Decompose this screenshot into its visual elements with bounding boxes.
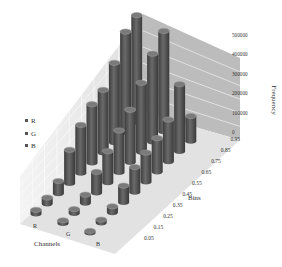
bin-tick: 0.65 xyxy=(202,169,212,175)
bin-tick: 0.05 xyxy=(144,235,154,241)
legend-item-b: B xyxy=(25,142,36,150)
legend-item-g: G xyxy=(25,130,36,138)
column-g-0.25 xyxy=(80,192,91,206)
column-b-0.45 xyxy=(129,164,140,194)
column-g-0.55 xyxy=(114,128,125,175)
bin-tick: 0.25 xyxy=(163,213,173,219)
column-g-0.85 xyxy=(147,51,158,144)
frequency-tick: 0 xyxy=(232,129,235,135)
column-b-0.35 xyxy=(118,183,129,205)
frequency-axis-label: Frequency xyxy=(270,85,278,115)
channel-tick-r: R xyxy=(33,223,37,229)
column-g-0.65 xyxy=(125,107,136,165)
legend-item-r: R xyxy=(25,117,36,125)
legend-label-g: G xyxy=(31,130,36,138)
column-r-0.35 xyxy=(64,147,75,186)
channel-tick-b: B xyxy=(96,241,100,247)
bin-tick: 0.55 xyxy=(192,180,202,186)
legend-swatch-b xyxy=(25,144,28,147)
column-g-0.45 xyxy=(102,149,113,186)
column-g-0.75 xyxy=(136,80,147,154)
column-r-0.05 xyxy=(31,207,42,216)
column-r-0.55 xyxy=(87,102,98,166)
bin-tick: 0.35 xyxy=(173,202,183,208)
column-r-0.25 xyxy=(53,178,64,196)
legend-label-b: B xyxy=(31,142,36,150)
column-b-0.85 xyxy=(174,82,185,154)
column-g-0.05 xyxy=(58,218,69,226)
column-r-0.15 xyxy=(42,195,53,207)
frequency-tick: 200000 xyxy=(232,90,248,96)
frequency-tick: 400000 xyxy=(232,51,248,57)
column-b-0.05 xyxy=(85,228,96,235)
legend-swatch-r xyxy=(25,119,28,122)
column-b-0.25 xyxy=(107,204,118,216)
column-r-0.45 xyxy=(75,122,86,176)
column-r-0.65 xyxy=(98,87,109,155)
column-b-0.75 xyxy=(163,117,174,164)
column-g-0.15 xyxy=(69,207,80,216)
channel-tick-g: G xyxy=(66,231,71,237)
bin-tick: 0.95 xyxy=(230,136,240,142)
legend: R G B xyxy=(25,117,36,150)
bin-tick: 0.15 xyxy=(154,224,164,230)
channels-axis-label: Channels xyxy=(34,240,60,248)
legend-swatch-g xyxy=(25,132,28,135)
legend-label-r: R xyxy=(31,117,36,125)
column-g-0.35 xyxy=(91,169,102,195)
column-b-0.55 xyxy=(141,150,152,185)
bin-tick: 0.85 xyxy=(221,147,231,153)
3d-column-chart: 0100000200000300000400000500000 Frequenc… xyxy=(0,0,282,267)
column-b-0.95 xyxy=(185,113,196,143)
column-b-0.15 xyxy=(96,217,107,225)
bins-axis-label: Bins xyxy=(188,194,201,202)
bin-tick: 0.75 xyxy=(211,158,221,164)
frequency-tick: 100000 xyxy=(232,110,248,116)
column-b-0.65 xyxy=(152,136,163,175)
frequency-tick: 300000 xyxy=(232,71,248,77)
frequency-tick: 500000 xyxy=(232,32,248,38)
